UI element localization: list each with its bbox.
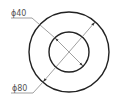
phi80-diameter-line [43, 22, 95, 82]
dimension-phi40: ϕ40 [11, 9, 83, 66]
phi80-label: ϕ80 [12, 84, 27, 93]
phi80-leader [33, 82, 43, 93]
dimension-phi80: ϕ80 [11, 22, 95, 93]
technical-drawing: ϕ40 ϕ80 [0, 0, 113, 100]
phi40-label: ϕ40 [11, 9, 26, 18]
